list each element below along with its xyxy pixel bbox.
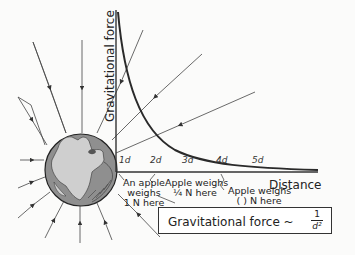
annotation-1d: An apple weighs 1 N here	[118, 178, 170, 208]
tick-2d: 2d	[150, 155, 161, 165]
y-axis-label: Gravitational force	[103, 10, 117, 122]
formula-denominator: d²	[311, 221, 323, 232]
formula-box: Gravitational force ~ 1 d²	[158, 207, 332, 234]
diagram-canvas: Gravitational force 1d 2d 3d 4d 5d Dista…	[0, 0, 355, 255]
annotation-4d: Apple weighs ( ) N here	[228, 186, 290, 206]
tick-1d: 1d	[119, 155, 130, 165]
earth-globe	[45, 134, 117, 206]
formula-numerator: 1	[311, 209, 323, 221]
tick-5d: 5d	[252, 155, 263, 165]
axes	[116, 10, 318, 172]
tick-3d: 3d	[182, 155, 193, 165]
tick-4d: 4d	[216, 155, 227, 165]
formula-fraction: 1 d²	[311, 209, 323, 232]
inverse-square-curve	[118, 12, 318, 170]
annotation-2d: Apple weighs ¼ N here	[165, 178, 225, 198]
formula-text: Gravitational force ~	[168, 215, 294, 229]
